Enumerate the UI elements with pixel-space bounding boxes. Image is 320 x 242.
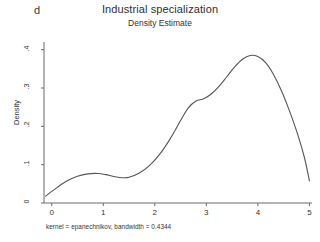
- kernel-note: kernel = epanechnikov, bandwidth = 0.434…: [46, 223, 171, 230]
- axes: [41, 42, 312, 206]
- plot-canvas: [0, 0, 320, 242]
- density-plot-figure: d Industrial specialization Density Esti…: [0, 0, 320, 242]
- density-curve: [46, 55, 310, 196]
